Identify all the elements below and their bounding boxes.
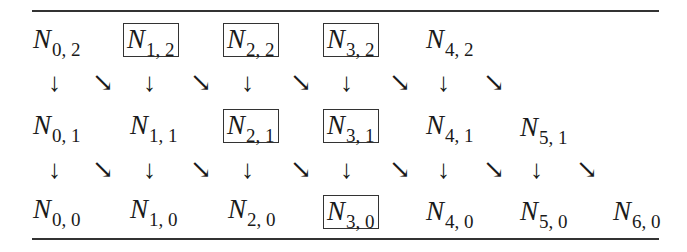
node-symbol: N <box>33 110 51 140</box>
node-symbol: N <box>327 196 345 226</box>
down-arrow-icon: ↓ <box>340 70 353 96</box>
diagonal-arrow-icon: ↘ <box>290 157 312 183</box>
node-subscript: 1, 0 <box>149 209 178 230</box>
node-subscript: 2, 0 <box>247 209 276 230</box>
node-symbol: N <box>33 194 51 224</box>
down-arrow-icon: ↓ <box>437 70 450 96</box>
node-N-2-1-boxed: N2, 1 <box>223 109 279 143</box>
node-subscript: 3, 0 <box>346 211 375 232</box>
down-arrow-icon: ↓ <box>48 70 61 96</box>
node-subscript: 4, 1 <box>445 125 474 146</box>
node-subscript: 5, 0 <box>539 211 568 232</box>
node-symbol: N <box>228 194 246 224</box>
node-subscript: 3, 2 <box>346 39 375 60</box>
node-N-3-1-boxed: N3, 1 <box>323 109 379 143</box>
node-symbol: N <box>327 110 345 140</box>
node-subscript: 0, 1 <box>52 125 81 146</box>
node-subscript: 2, 2 <box>246 39 275 60</box>
node-symbol: N <box>227 24 245 54</box>
diagonal-arrow-icon: ↘ <box>483 157 505 183</box>
bottom-rule <box>32 238 659 240</box>
node-symbol: N <box>426 110 444 140</box>
node-symbol: N <box>520 112 538 142</box>
node-subscript: 0, 0 <box>52 209 81 230</box>
node-N-4-1: N4, 1 <box>426 110 474 142</box>
node-N-3-0-boxed: N3, 0 <box>323 195 379 229</box>
diagonal-arrow-icon: ↘ <box>190 157 212 183</box>
node-N-1-1: N1, 1 <box>130 110 178 142</box>
node-symbol: N <box>130 194 148 224</box>
down-arrow-icon: ↓ <box>143 157 156 183</box>
node-subscript: 5, 1 <box>539 127 568 148</box>
node-N-4-0: N4, 0 <box>426 196 474 228</box>
node-symbol: N <box>327 24 345 54</box>
diagonal-arrow-icon: ↘ <box>92 157 114 183</box>
down-arrow-icon: ↓ <box>48 157 61 183</box>
node-subscript: 6, 0 <box>632 211 661 232</box>
node-N-0-2: N0, 2 <box>33 24 81 56</box>
node-symbol: N <box>130 110 148 140</box>
node-symbol: N <box>33 24 51 54</box>
node-N-2-0: N2, 0 <box>228 194 276 226</box>
node-symbol: N <box>613 196 631 226</box>
node-subscript: 1, 2 <box>146 39 175 60</box>
down-arrow-icon: ↓ <box>143 70 156 96</box>
node-N-0-1: N0, 1 <box>33 110 81 142</box>
node-symbol: N <box>520 196 538 226</box>
node-N-1-2-boxed: N1, 2 <box>123 23 179 57</box>
node-subscript: 4, 0 <box>445 211 474 232</box>
node-subscript: 4, 2 <box>445 39 474 60</box>
node-subscript: 2, 1 <box>246 125 275 146</box>
down-arrow-icon: ↓ <box>241 157 254 183</box>
node-subscript: 0, 2 <box>52 39 81 60</box>
node-symbol: N <box>127 24 145 54</box>
down-arrow-icon: ↓ <box>241 70 254 96</box>
diagonal-arrow-icon: ↘ <box>389 157 411 183</box>
node-N-3-2-boxed: N3, 2 <box>323 23 379 57</box>
node-N-0-0: N0, 0 <box>33 194 81 226</box>
down-arrow-icon: ↓ <box>437 157 450 183</box>
node-N-2-2-boxed: N2, 2 <box>223 23 279 57</box>
diagonal-arrow-icon: ↘ <box>483 70 505 96</box>
top-rule <box>32 10 659 12</box>
diagonal-arrow-icon: ↘ <box>389 70 411 96</box>
node-subscript: 1, 1 <box>149 125 178 146</box>
node-N-5-1: N5, 1 <box>520 112 568 144</box>
diagonal-arrow-icon: ↘ <box>290 70 312 96</box>
down-arrow-icon: ↓ <box>530 157 543 183</box>
diagonal-arrow-icon: ↘ <box>190 70 212 96</box>
node-N-1-0: N1, 0 <box>130 194 178 226</box>
node-symbol: N <box>426 24 444 54</box>
node-subscript: 3, 1 <box>346 125 375 146</box>
diagonal-arrow-icon: ↘ <box>576 157 598 183</box>
node-symbol: N <box>227 110 245 140</box>
down-arrow-icon: ↓ <box>340 157 353 183</box>
node-symbol: N <box>426 196 444 226</box>
diagonal-arrow-icon: ↘ <box>92 70 114 96</box>
node-N-5-0: N5, 0 <box>520 196 568 228</box>
node-N-4-2: N4, 2 <box>426 24 474 56</box>
node-N-6-0: N6, 0 <box>613 196 661 228</box>
